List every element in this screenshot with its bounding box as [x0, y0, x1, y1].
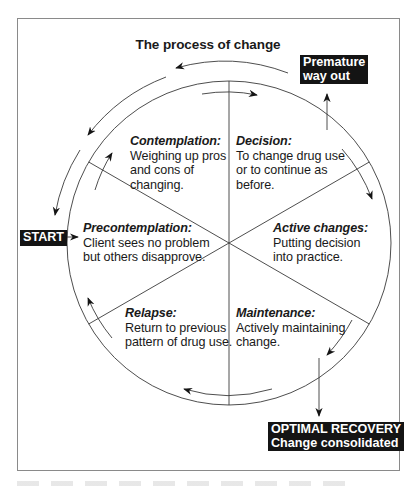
optimal-recovery-badge: OPTIMAL RECOVERY Change consolidated [268, 422, 404, 451]
stage-description: To change drug use or to continue as bef… [236, 149, 345, 193]
stage-active-changes: Active changes: Putting decision into pr… [273, 221, 368, 265]
premature-way-out-badge: Premature way out [300, 55, 368, 84]
stage-name: Decision: [236, 134, 345, 149]
stage-maintenance: Maintenance: Actively maintaining change… [236, 306, 345, 350]
cropped-caption [17, 481, 347, 486]
stage-description: Return to previous pattern of drug use. [125, 321, 232, 350]
stage-description: Weighing up pros and cons of changing. [130, 149, 226, 193]
stage-name: Relapse: [125, 306, 232, 321]
stage-relapse: Relapse: Return to previous pattern of d… [125, 306, 232, 350]
stage-name: Maintenance: [236, 306, 345, 321]
stage-contemplation: Contemplation: Weighing up pros and cons… [130, 134, 226, 192]
stage-name: Precontemplation: [83, 221, 210, 236]
stage-precontemplation: Precontemplation: Client sees no problem… [83, 221, 210, 265]
diagram-title: The process of change [0, 37, 416, 52]
stage-name: Contemplation: [130, 134, 226, 149]
stage-description: Client sees no problem but others disapp… [83, 236, 210, 265]
stage-description: Actively maintaining change. [236, 321, 345, 350]
start-badge: START [20, 230, 67, 246]
stage-decision: Decision: To change drug use or to conti… [236, 134, 345, 192]
stage-description: Putting decision into practice. [273, 236, 368, 265]
stage-name: Active changes: [273, 221, 368, 236]
